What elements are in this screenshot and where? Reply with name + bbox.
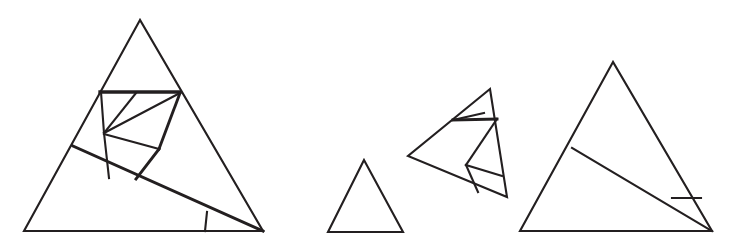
figure-canvas bbox=[0, 0, 735, 251]
triangle-dissection-svg bbox=[0, 0, 735, 251]
